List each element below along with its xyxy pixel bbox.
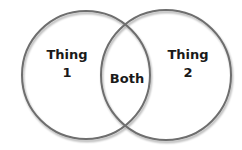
label-thing-2-line2: 2 <box>183 65 192 80</box>
venn-diagram: Thing 1 Thing 2 Both <box>0 0 242 150</box>
label-thing-2-line1: Thing <box>167 47 208 62</box>
label-thing-1-line1: Thing <box>46 47 87 62</box>
label-thing-1-line2: 1 <box>62 65 71 80</box>
label-both: Both <box>110 71 144 86</box>
